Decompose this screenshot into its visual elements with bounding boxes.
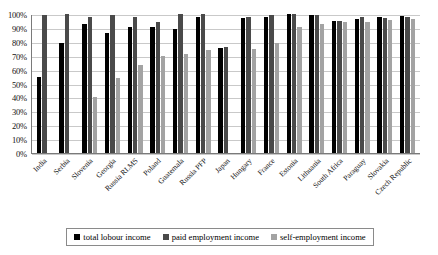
bar-group: [283, 15, 306, 153]
bar: [252, 49, 256, 153]
y-axis-tick-label: 80%: [12, 39, 27, 48]
y-axis-tick-label: 20%: [12, 122, 27, 131]
legend-item: self-employment income: [271, 233, 366, 242]
x-axis-label-cell: Paraguay: [351, 155, 374, 217]
bar: [241, 18, 245, 153]
bar: [224, 47, 228, 153]
bar: [297, 27, 301, 153]
y-axis: 100%90%80%70%60%50%40%30%20%10%0%: [0, 8, 30, 154]
bar: [360, 17, 364, 153]
x-axis-tick-label: India: [32, 157, 49, 174]
x-axis-label-cell: Estonia: [282, 155, 305, 217]
x-axis-tick-label: Serbia: [52, 157, 71, 176]
bar: [411, 19, 415, 153]
bar-group: [351, 15, 374, 153]
bar-group: [169, 15, 192, 153]
bar: [343, 22, 347, 153]
bar: [138, 65, 142, 153]
bar: [315, 15, 319, 153]
x-axis-label-cell: Japan: [214, 155, 237, 217]
bar: [377, 17, 381, 153]
x-axis-label-cell: France: [260, 155, 283, 217]
x-axis-label-cell: India: [32, 155, 55, 217]
bar: [292, 14, 296, 153]
x-axis-label-cell: South Africa: [328, 155, 351, 217]
bar-missing: [70, 152, 74, 153]
bar-group: [56, 15, 79, 153]
bar: [42, 15, 46, 153]
bar-group: [124, 15, 147, 153]
x-axis-tick-label: France: [256, 157, 276, 177]
bar: [388, 20, 392, 153]
bar: [116, 78, 120, 153]
bar: [320, 24, 324, 153]
bar-groups: [32, 15, 420, 153]
y-axis-tick-label: 10%: [12, 136, 27, 145]
legend-label: total lobour income: [83, 233, 150, 242]
bar: [405, 17, 409, 153]
bar: [309, 15, 313, 153]
bar: [196, 17, 200, 153]
x-axis-label-cell: Russia RLMS: [123, 155, 146, 217]
bar: [161, 56, 165, 153]
bar-group: [33, 15, 56, 153]
y-axis-tick-label: 50%: [12, 80, 27, 89]
y-axis-tick-label: 100%: [8, 11, 27, 20]
x-axis-tick-label: Japan: [213, 157, 231, 175]
legend-swatch-icon: [163, 234, 169, 240]
bar: [332, 21, 336, 153]
bar-group: [237, 15, 260, 153]
bar: [201, 14, 205, 153]
chart-legend: total lobour incomepaid employment incom…: [66, 228, 374, 246]
x-axis-label-cell: Serbia: [55, 155, 78, 217]
bar: [206, 50, 210, 153]
bar: [264, 17, 268, 153]
y-axis-tick-label: 0%: [16, 150, 27, 159]
bar: [184, 54, 188, 153]
bar: [93, 97, 97, 153]
bar: [400, 16, 404, 153]
bar-group: [396, 15, 419, 153]
legend-item: total lobour income: [74, 233, 150, 242]
legend-label: paid employment income: [172, 233, 259, 242]
bar: [133, 17, 137, 153]
bar-group: [260, 15, 283, 153]
bar-group: [328, 15, 351, 153]
plot-area: [31, 15, 420, 154]
y-axis-tick-label: 40%: [12, 94, 27, 103]
y-axis-tick-label: 90%: [12, 25, 27, 34]
bar: [105, 33, 109, 153]
bar: [150, 27, 154, 153]
bar: [37, 77, 41, 153]
bar-missing: [48, 152, 52, 153]
bar: [173, 29, 177, 153]
bar: [218, 48, 222, 153]
bar: [65, 14, 69, 153]
bar: [383, 18, 387, 153]
bar-group: [78, 15, 101, 153]
bar: [59, 43, 63, 153]
bar: [355, 19, 359, 153]
x-axis-label-cell: Slovenia: [78, 155, 101, 217]
bar: [365, 22, 369, 153]
bar-group: [192, 15, 215, 153]
bar-group: [147, 15, 170, 153]
x-axis-label-cell: Hungary: [237, 155, 260, 217]
bar-group: [101, 15, 124, 153]
bar: [128, 27, 132, 153]
y-axis-tick-label: 70%: [12, 52, 27, 61]
x-axis-label-cell: Russia PFP: [191, 155, 214, 217]
x-axis-label-cell: Guatemala: [169, 155, 192, 217]
x-axis-label-cell: Czech Republic: [396, 155, 419, 217]
bar: [110, 15, 114, 153]
bar: [275, 43, 279, 153]
plot-area-wrapper: 100%90%80%70%60%50%40%30%20%10%0%: [0, 8, 438, 158]
bar-group: [374, 15, 397, 153]
bar: [156, 22, 160, 153]
legend-swatch-icon: [74, 234, 80, 240]
bar: [178, 14, 182, 153]
bar: [88, 17, 92, 153]
bar: [246, 17, 250, 153]
bar-group: [215, 15, 238, 153]
bar-missing: [229, 152, 233, 153]
